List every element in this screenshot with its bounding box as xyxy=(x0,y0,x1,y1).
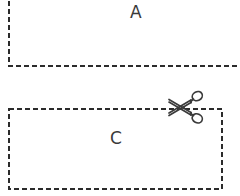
scissors-icon xyxy=(166,88,208,126)
diagram-canvas: A C xyxy=(0,0,240,196)
region-label-c: C xyxy=(110,130,122,147)
region-label-a: A xyxy=(130,4,142,21)
box-a-rect xyxy=(9,0,240,66)
